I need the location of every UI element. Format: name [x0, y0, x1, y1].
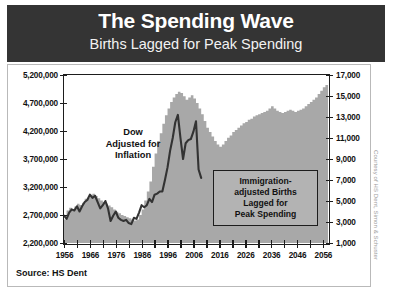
births-annotation-line-1: Immigration-	[217, 176, 314, 187]
x-axis-tick-2016	[219, 240, 221, 248]
x-axis-tick-1966	[90, 240, 92, 248]
y-axis-right-tick-6	[326, 117, 333, 119]
x-axis-tick-1956	[64, 240, 66, 248]
y-axis-left-tick-4	[60, 131, 67, 133]
y-axis-right-label-8: 17,000	[336, 71, 360, 80]
x-axis-tick-1996	[167, 240, 169, 248]
x-axis-tick-2011	[206, 240, 208, 248]
x-axis-tick-1991	[154, 240, 156, 248]
y-axis-right-tick-5	[326, 138, 333, 140]
x-axis-tick-2026	[245, 240, 247, 248]
y-axis-left-tick-3	[60, 159, 67, 161]
y-axis-left-label-2: 3,200,000	[0, 183, 58, 192]
y-axis-right-tick-4	[326, 159, 333, 161]
y-axis-left-tick-6	[60, 75, 67, 77]
x-axis-tick-2001	[180, 240, 182, 248]
x-axis-tick-2021	[232, 240, 234, 248]
y-axis-left-tick-1	[60, 215, 67, 217]
y-axis-right-tick-1	[326, 222, 333, 224]
y-axis-left-label-3: 3,700,000	[0, 155, 58, 164]
y-axis-right-tick-8	[326, 75, 333, 77]
y-axis-left-tick-5	[60, 103, 67, 105]
chart-page: The Spending Wave Births Lagged for Peak…	[0, 0, 399, 296]
y-axis-right-label-3: 7,000	[336, 176, 356, 185]
y-axis-right-tick-0	[326, 243, 333, 245]
births-annotation-line-3: Lagged for	[217, 198, 314, 209]
x-axis-tick-2056	[323, 240, 325, 248]
x-axis-label-2056: 2056	[307, 251, 339, 260]
x-axis-tick-2041	[284, 240, 286, 248]
y-axis-right-label-2: 5,000	[336, 197, 356, 206]
y-axis-right-tick-7	[326, 96, 333, 98]
y-axis-left-label-4: 4,200,000	[0, 127, 58, 136]
dow-annotation-line-3: Inflation	[96, 150, 170, 162]
x-axis-tick-2036	[271, 240, 273, 248]
chart-figure: 2,200,0002,700,0003,200,0003,700,0004,20…	[0, 0, 399, 296]
y-axis-right-label-5: 11,000	[336, 134, 360, 143]
y-axis-right-tick-3	[326, 180, 333, 182]
x-axis-tick-1981	[129, 240, 131, 248]
y-axis-right-label-4: 9,000	[336, 155, 356, 164]
y-axis-right-label-0: 1,000	[336, 239, 356, 248]
y-axis-right-label-6: 13,000	[336, 113, 360, 122]
dow-annotation: Dow Adjusted for Inflation	[96, 127, 170, 162]
y-axis-left-label-1: 2,700,000	[0, 211, 58, 220]
y-axis-right-tick-2	[326, 201, 333, 203]
y-axis-left-tick-2	[60, 187, 67, 189]
births-annotation-line-4: Peak Spending	[217, 209, 314, 220]
x-axis-tick-1976	[116, 240, 118, 248]
x-axis-tick-2046	[297, 240, 299, 248]
y-axis-left-label-5: 4,700,000	[0, 99, 58, 108]
x-axis-tick-2006	[193, 240, 195, 248]
births-annotation-box: Immigration- adjusted Births Lagged for …	[213, 170, 318, 226]
credit-note: Courtesy of HS Dent, Simon & Schuster	[373, 150, 379, 290]
y-axis-right-label-7: 15,000	[336, 92, 360, 101]
source-note: Source: HS Dent	[16, 268, 87, 278]
x-axis-tick-2051	[310, 240, 312, 248]
x-axis-tick-1986	[142, 240, 144, 248]
births-annotation-line-2: adjusted Births	[217, 187, 314, 198]
dow-annotation-line-1: Dow	[96, 127, 170, 139]
x-axis-tick-1961	[77, 240, 79, 248]
y-axis-left-label-6: 5,200,000	[0, 71, 58, 80]
x-axis-tick-2031	[258, 240, 260, 248]
x-axis-tick-1971	[103, 240, 105, 248]
y-axis-left-label-0: 2,200,000	[0, 239, 58, 248]
dow-annotation-line-2: Adjusted for	[96, 139, 170, 151]
y-axis-right-label-1: 3,000	[336, 218, 356, 227]
